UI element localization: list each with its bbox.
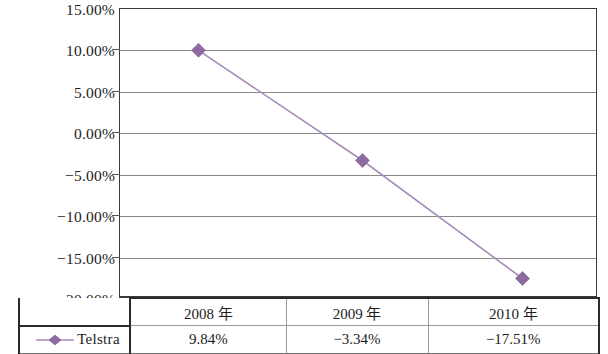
chart-container: 15.00% 10.00% 5.00% 0.00% −5.00% −10.00%… xyxy=(0,0,608,300)
data-point-2009 xyxy=(356,154,370,168)
legend-entry-telstra: Telstra xyxy=(19,326,130,354)
table-cell-2008: 9.84% xyxy=(130,326,286,354)
table-header-2009: 2009 年 xyxy=(286,298,428,326)
legend-label-telstra: Telstra xyxy=(77,331,120,348)
table-corner-blank xyxy=(19,298,130,326)
table-header-row: 2008 年 2009 年 2010 年 xyxy=(19,298,599,326)
series-telstra xyxy=(0,0,608,300)
table-header-2008: 2008 年 xyxy=(130,298,286,326)
data-table: 2008 年 2009 年 2010 年 Telstra 9.84% −3.34… xyxy=(18,297,600,354)
data-point-2010 xyxy=(516,272,530,286)
legend-line-diamond-icon xyxy=(35,333,75,347)
data-point-2008 xyxy=(192,43,206,57)
table-cell-2009: −3.34% xyxy=(286,326,428,354)
table-cell-2010: −17.51% xyxy=(428,326,599,354)
table-header-2010: 2010 年 xyxy=(428,298,599,326)
table-row: Telstra 9.84% −3.34% −17.51% xyxy=(19,326,599,354)
